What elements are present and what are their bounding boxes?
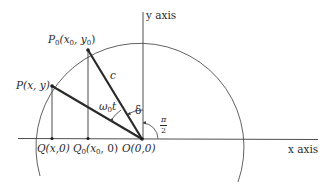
label-radius-c: c bbox=[110, 70, 116, 81]
harmonic-motion-reference-circle bbox=[0, 0, 334, 189]
label-angle-delta: δ bbox=[135, 105, 141, 116]
point-P0 bbox=[86, 48, 90, 52]
label-Q0: Q0(x0, 0) bbox=[73, 143, 118, 156]
label-angle-omega-t: ω0t bbox=[99, 101, 116, 114]
point-Q0 bbox=[86, 137, 89, 140]
label-O: O(0,0) bbox=[122, 143, 156, 154]
x-axis-label: x axis bbox=[288, 144, 318, 155]
point-Q bbox=[50, 137, 53, 140]
radius-OP bbox=[52, 86, 142, 139]
label-Q: Q(x,0) bbox=[37, 143, 70, 154]
label-angle-half-pi: π 2 bbox=[160, 113, 167, 135]
label-P0: P0(x0, y0) bbox=[48, 34, 95, 47]
x-axis-line bbox=[18, 139, 318, 140]
label-P: P(x, y) bbox=[16, 80, 50, 91]
radius-OP0 bbox=[88, 50, 142, 139]
point-O bbox=[140, 137, 144, 141]
y-axis-label: y axis bbox=[146, 10, 176, 21]
point-P bbox=[50, 84, 54, 88]
angle-arc-half-pi bbox=[143, 123, 158, 139]
